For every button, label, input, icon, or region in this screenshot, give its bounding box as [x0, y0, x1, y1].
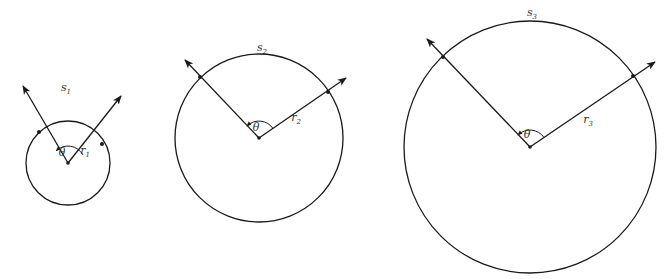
circle-figure-1: s1θr1 [23, 81, 121, 205]
angle-arc-arrow [518, 130, 544, 137]
circle-figure-3: s3θr3 [404, 6, 656, 273]
arc-length-label: s1 [61, 81, 71, 96]
circle-arc-diagram: s1θr1s2θr2s3θr3 [0, 0, 672, 279]
radius-label: r2 [291, 111, 301, 126]
radius-label: r1 [80, 144, 90, 159]
center-point [257, 136, 261, 140]
intersection-point-right [631, 74, 635, 78]
intersection-point-left [37, 130, 41, 134]
intersection-point-left [198, 75, 202, 79]
angle-theta-label: θ [253, 121, 260, 134]
intersection-point-right [326, 90, 330, 94]
arc-length-label: s2 [257, 41, 268, 56]
ray-left-arrow [185, 60, 259, 138]
angle-arc-arrow [247, 121, 273, 129]
ray-right-arrow [68, 96, 121, 163]
intersection-point-right [100, 142, 104, 146]
angle-theta-label: θ [524, 128, 531, 141]
intersection-point-left [441, 55, 445, 59]
arc-length-label: s3 [527, 6, 538, 21]
radius-label: r3 [583, 113, 593, 128]
circle-figure-2: s2θr2 [175, 41, 346, 222]
ray-right-arrow [259, 78, 346, 138]
center-point [528, 145, 532, 149]
ray-right-arrow [530, 62, 655, 147]
angle-theta-label: θ [59, 146, 66, 159]
center-point [66, 161, 70, 165]
